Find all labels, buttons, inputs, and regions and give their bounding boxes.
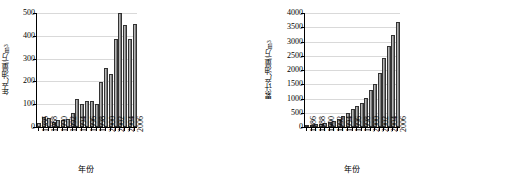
x-axis-tick-label: 1994 bbox=[80, 116, 88, 132]
x-axis-tick-label: 1992 bbox=[70, 116, 78, 132]
y-axis-tick-mark bbox=[33, 59, 36, 60]
y-axis-tick-mark bbox=[301, 70, 304, 71]
bar-highlight bbox=[392, 36, 393, 126]
bar bbox=[123, 25, 127, 127]
chart-cumulative-oil-production: 累计产油量/万m30500100015002000250030003500400… bbox=[263, 0, 526, 176]
x-axis-tick-label: 2004 bbox=[391, 116, 399, 132]
y-axis-tick-mark bbox=[33, 36, 36, 37]
y-axis-tick-mark bbox=[301, 27, 304, 28]
y-axis-tick-mark bbox=[301, 42, 304, 43]
figure-pair: 年产油量/万m301002003004005001986198819901992… bbox=[0, 0, 526, 176]
x-axis-title: 年份 bbox=[304, 163, 399, 174]
x-axis-tick-label: 1996 bbox=[90, 116, 98, 132]
gridline bbox=[305, 27, 400, 28]
x-axis-title: 年份 bbox=[36, 163, 136, 174]
x-axis-tick-label: 2000 bbox=[373, 116, 381, 132]
bar-highlight bbox=[115, 40, 116, 126]
y-axis-tick-mark bbox=[301, 84, 304, 85]
x-axis-tick-label: 1988 bbox=[51, 116, 59, 132]
x-axis-tick-label: 2002 bbox=[382, 116, 390, 132]
x-axis-tick-label: 1996 bbox=[355, 116, 363, 132]
bar-highlight bbox=[388, 47, 389, 126]
chart-annual-oil-production: 年产油量/万m301002003004005001986198819901992… bbox=[0, 0, 263, 176]
bar-highlight bbox=[119, 14, 120, 126]
bar bbox=[396, 22, 400, 127]
y-axis-tick-mark bbox=[33, 127, 36, 128]
bar-highlight bbox=[397, 23, 398, 126]
x-axis-tick-label: 2004 bbox=[128, 116, 136, 132]
y-axis-title-exponent: 3 bbox=[266, 41, 272, 44]
x-axis-tick-label: 1988 bbox=[319, 116, 327, 132]
bar bbox=[387, 46, 391, 127]
bar-highlight bbox=[134, 25, 135, 126]
bar bbox=[391, 35, 395, 127]
plot-area bbox=[304, 13, 400, 128]
bar bbox=[133, 24, 137, 127]
x-axis-tick-label: 1986 bbox=[42, 116, 50, 132]
y-axis-tick-mark bbox=[301, 99, 304, 100]
x-axis-tick-label: 1990 bbox=[328, 116, 336, 132]
y-axis-tick-mark bbox=[301, 56, 304, 57]
x-axis-tick-mark bbox=[306, 128, 307, 131]
bar-highlight bbox=[124, 26, 125, 126]
x-axis-tick-label: 1998 bbox=[99, 116, 107, 132]
gridline bbox=[305, 42, 400, 43]
bar-highlight bbox=[129, 40, 130, 126]
y-axis-tick-mark bbox=[33, 13, 36, 14]
x-axis-tick-label: 1994 bbox=[346, 116, 354, 132]
y-axis-tick-mark bbox=[33, 104, 36, 105]
x-axis-tick-label: 1986 bbox=[310, 116, 318, 132]
x-axis-tick-label: 2002 bbox=[118, 116, 126, 132]
y-axis-tick-mark bbox=[301, 13, 304, 14]
x-axis-tick-label: 2006 bbox=[400, 116, 408, 132]
bar bbox=[118, 13, 122, 127]
y-axis-tick-mark bbox=[301, 127, 304, 128]
gridline bbox=[305, 13, 400, 14]
bar bbox=[128, 39, 132, 127]
bar-highlight bbox=[38, 124, 39, 126]
x-axis-tick-label: 1998 bbox=[364, 116, 372, 132]
y-axis-tick-labels: 0100200300400500 bbox=[5, 13, 35, 127]
x-axis-tick-label: 1992 bbox=[337, 116, 345, 132]
x-axis-tick-label: 1990 bbox=[61, 116, 69, 132]
x-axis-tick-mark bbox=[38, 128, 39, 131]
bar bbox=[114, 39, 118, 127]
y-axis-tick-mark bbox=[301, 113, 304, 114]
y-axis-tick-mark bbox=[33, 81, 36, 82]
y-axis-tick-labels: 05001000150020002500300035004000 bbox=[273, 13, 303, 127]
x-axis-tick-label: 2000 bbox=[109, 116, 117, 132]
plot-area bbox=[36, 13, 137, 128]
x-axis-tick-label: 2006 bbox=[137, 116, 145, 132]
